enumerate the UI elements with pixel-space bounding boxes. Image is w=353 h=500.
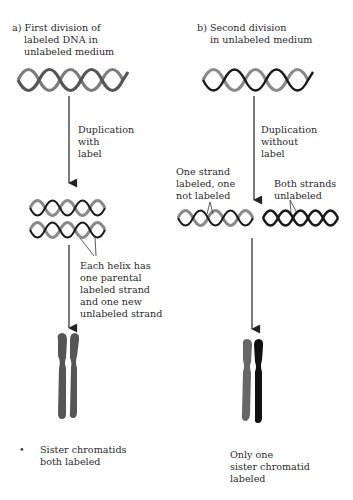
panel-b-left-pointer-1 xyxy=(207,202,210,214)
panel-b-daughter-helix-right xyxy=(263,211,338,226)
panel-b-parental-helix xyxy=(203,70,313,91)
panel-b-daughter-helix-left xyxy=(178,211,253,226)
panel-a-pointer-line-1 xyxy=(80,238,94,256)
panel-a-chromosome xyxy=(58,333,80,419)
panel-a-daughter-helix-2 xyxy=(30,223,105,238)
panel-b-chromosome xyxy=(242,339,263,423)
panel-a-daughter-helix-1 xyxy=(30,201,105,216)
panel-a-pointer-line-2 xyxy=(95,236,96,256)
diagram-artwork xyxy=(0,0,353,500)
panel-a-parental-helix xyxy=(18,70,128,91)
